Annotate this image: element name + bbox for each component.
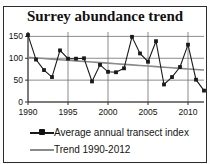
svg-text:150: 150: [9, 31, 23, 41]
line-chart-svg: 050100150 19901995200020052010: [4, 28, 206, 120]
gridlines-group: [28, 32, 204, 102]
chart-legend: Average annual transect index Trend 1990…: [0, 124, 210, 158]
svg-text:50: 50: [14, 75, 24, 85]
legend-line-marker-icon: [30, 127, 54, 138]
data-series-line: [28, 35, 204, 91]
legend-plain-line-icon: [30, 144, 54, 155]
figure-container: Surrey abundance trend 050100150 1990199…: [0, 0, 210, 164]
y-axis-labels: 050100150: [9, 31, 23, 107]
x-axis-labels: 19901995200020052010: [19, 107, 198, 117]
svg-text:0: 0: [18, 97, 23, 107]
svg-text:1990: 1990: [19, 107, 38, 117]
svg-text:2010: 2010: [179, 107, 198, 117]
legend-item-series: Average annual transect index: [0, 124, 210, 141]
chart-title: Surrey abundance trend: [0, 8, 210, 25]
legend-label-trend: Trend 1990-2012: [54, 144, 130, 156]
svg-text:100: 100: [9, 53, 23, 63]
svg-text:1995: 1995: [59, 107, 78, 117]
svg-text:2005: 2005: [139, 107, 158, 117]
legend-label-series: Average annual transect index: [54, 127, 189, 139]
plot-area: 050100150 19901995200020052010: [4, 28, 206, 120]
axis-group: [28, 32, 204, 102]
svg-text:2000: 2000: [99, 107, 118, 117]
legend-item-trend: Trend 1990-2012: [0, 141, 210, 158]
data-point-markers: [26, 33, 206, 92]
